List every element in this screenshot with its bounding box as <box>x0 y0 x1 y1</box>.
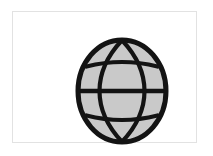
globe-graphic <box>74 35 170 147</box>
image-card <box>12 11 197 143</box>
globe-icon <box>74 35 170 147</box>
screenshot-root <box>0 0 213 156</box>
